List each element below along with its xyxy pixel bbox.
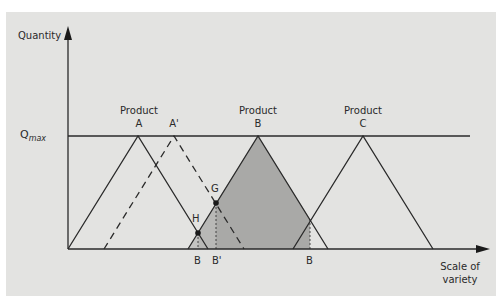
product-c-triangle <box>293 136 433 249</box>
marker-b-right: B <box>306 254 313 267</box>
point-h <box>195 230 201 236</box>
point-h-label: H <box>192 212 200 225</box>
shaded-market-area-b <box>216 136 310 249</box>
product-a-label: ProductA <box>118 104 160 130</box>
product-b-label: ProductB <box>237 104 279 130</box>
shaded-lost-area <box>198 203 216 249</box>
marker-b-left: B <box>194 254 201 267</box>
point-g-label: G <box>211 182 219 195</box>
x-axis-label: Scale ofvariety <box>438 260 482 286</box>
y-axis-label: Quantity <box>18 29 61 42</box>
product-variety-diagram <box>0 0 499 306</box>
x-axis-arrow-icon <box>476 245 490 253</box>
product-a-prime-label: A' <box>166 117 182 130</box>
product-c-label: ProductC <box>342 104 384 130</box>
marker-b-prime: B' <box>212 254 222 267</box>
qmax-label: Qmax <box>20 128 46 143</box>
point-g <box>213 200 219 206</box>
product-a-triangle <box>68 136 208 249</box>
y-axis-arrow-icon <box>64 26 72 40</box>
